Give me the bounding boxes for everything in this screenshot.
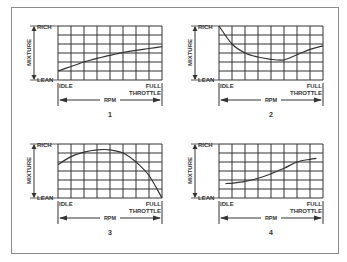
svg-text:FULL: FULL xyxy=(307,201,323,207)
svg-text:RPM: RPM xyxy=(104,215,117,221)
chart-4: RICHLEANMIXTUREIDLEFULLTHROTTLERPM4 xyxy=(187,142,323,236)
arrow-left-icon xyxy=(59,98,67,103)
svg-text:MIXTURE: MIXTURE xyxy=(187,39,193,66)
arrow-right-icon xyxy=(153,98,161,103)
arrow-left-icon xyxy=(220,98,228,103)
svg-text:IDLE: IDLE xyxy=(220,201,234,207)
arrow-left-icon xyxy=(59,216,67,221)
svg-text:3: 3 xyxy=(108,229,112,236)
svg-text:RICH: RICH xyxy=(198,142,213,148)
chart-1: RICHLEANMIXTUREIDLEFULLTHROTTLERPM1 xyxy=(26,24,162,118)
svg-text:LEAN: LEAN xyxy=(37,77,53,83)
svg-text:FULL: FULL xyxy=(146,83,162,89)
arrow-right-icon xyxy=(153,216,161,221)
svg-text:RICH: RICH xyxy=(37,142,52,148)
svg-text:RPM: RPM xyxy=(265,97,278,103)
chart-2: RICHLEANMIXTUREIDLEFULLTHROTTLERPM2 xyxy=(187,24,323,118)
svg-text:MIXTURE: MIXTURE xyxy=(26,157,32,184)
arrow-right-icon xyxy=(314,98,322,103)
arrow-up-icon xyxy=(32,144,37,149)
arrow-up-icon xyxy=(32,26,37,31)
svg-text:THROTTLE: THROTTLE xyxy=(129,208,161,214)
svg-text:THROTTLE: THROTTLE xyxy=(290,90,322,96)
arrow-up-icon xyxy=(193,26,198,31)
svg-text:RPM: RPM xyxy=(265,215,278,221)
svg-text:4: 4 xyxy=(269,229,273,236)
arrow-down-icon xyxy=(193,193,198,198)
svg-text:LEAN: LEAN xyxy=(198,77,214,83)
svg-text:IDLE: IDLE xyxy=(59,83,73,89)
arrow-left-icon xyxy=(220,216,228,221)
svg-text:RICH: RICH xyxy=(37,24,52,30)
arrow-up-icon xyxy=(193,144,198,149)
arrow-down-icon xyxy=(193,75,198,80)
svg-text:MIXTURE: MIXTURE xyxy=(187,157,193,184)
svg-text:RICH: RICH xyxy=(198,24,213,30)
svg-text:IDLE: IDLE xyxy=(220,83,234,89)
arrow-right-icon xyxy=(314,216,322,221)
mixture-rpm-charts: RICHLEANMIXTUREIDLEFULLTHROTTLERPM1RICHL… xyxy=(0,0,347,262)
svg-text:LEAN: LEAN xyxy=(37,195,53,201)
svg-text:1: 1 xyxy=(108,111,112,118)
svg-text:IDLE: IDLE xyxy=(59,201,73,207)
chart-3: RICHLEANMIXTUREIDLEFULLTHROTTLERPM3 xyxy=(26,142,162,236)
svg-text:FULL: FULL xyxy=(307,83,323,89)
svg-text:THROTTLE: THROTTLE xyxy=(290,208,322,214)
svg-text:THROTTLE: THROTTLE xyxy=(129,90,161,96)
svg-text:2: 2 xyxy=(269,111,273,118)
svg-text:RPM: RPM xyxy=(104,97,117,103)
svg-text:MIXTURE: MIXTURE xyxy=(26,39,32,66)
svg-text:FULL: FULL xyxy=(146,201,162,207)
arrow-down-icon xyxy=(32,193,37,198)
arrow-down-icon xyxy=(32,75,37,80)
svg-text:LEAN: LEAN xyxy=(198,195,214,201)
